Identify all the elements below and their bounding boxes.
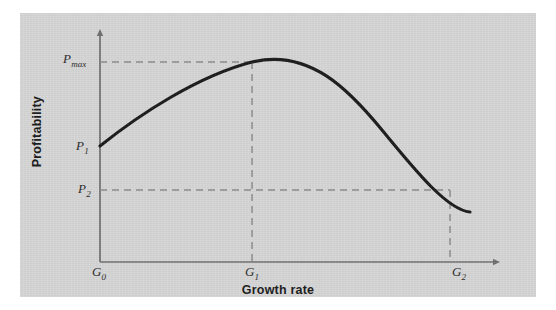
x-axis-title: Growth rate — [0, 283, 556, 297]
profitability-curve — [100, 59, 470, 212]
label-g0-base: G — [92, 264, 102, 279]
label-g1-base: G — [245, 264, 255, 279]
figure-container: Profitability Growth rate Pmax P1 P2 G0 … — [0, 0, 556, 310]
label-p2: P2 — [78, 181, 91, 199]
label-g2-sub: 2 — [462, 272, 467, 282]
label-p2-base: P — [78, 181, 86, 196]
label-g1: G1 — [245, 264, 259, 282]
label-p1-base: P — [76, 138, 84, 153]
label-p1: P1 — [76, 138, 89, 156]
chart-plot-area — [20, 13, 536, 297]
label-g2: G2 — [452, 264, 466, 282]
y-axis-title: Profitability — [30, 96, 44, 167]
label-p-max-base: P — [63, 51, 71, 66]
label-g0: G0 — [92, 264, 106, 282]
label-g2-base: G — [452, 264, 462, 279]
label-g1-sub: 1 — [255, 272, 260, 282]
label-g0-sub: 0 — [102, 272, 107, 282]
label-p-max: Pmax — [63, 51, 86, 69]
chart-panel — [20, 13, 536, 297]
label-p-max-sub: max — [71, 59, 86, 69]
label-p2-sub: 2 — [86, 189, 91, 199]
label-p1-sub: 1 — [84, 146, 89, 156]
